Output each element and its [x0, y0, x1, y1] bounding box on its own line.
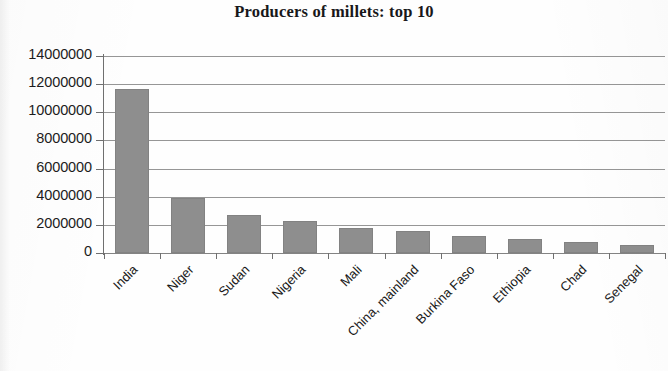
y-axis-tick-label: 8000000 [0, 130, 92, 146]
y-axis-tick-label: 4000000 [0, 187, 92, 203]
plot-area [104, 56, 665, 253]
x-axis-tick-mark [665, 253, 666, 259]
bar [227, 215, 261, 253]
x-axis-tick-mark [216, 253, 217, 259]
bar [171, 198, 205, 253]
bar [396, 231, 430, 254]
x-axis-tick-mark [385, 253, 386, 259]
gridline [104, 169, 665, 170]
y-axis-tick-label: 0 [0, 243, 92, 259]
bar [508, 239, 542, 253]
x-axis-tick-mark [497, 253, 498, 259]
x-axis-tick-mark [104, 253, 105, 259]
bar [564, 242, 598, 253]
bar [620, 245, 654, 253]
y-axis-tick-label: 10000000 [0, 102, 92, 118]
gridline [104, 56, 665, 57]
x-axis-tick-mark [160, 253, 161, 259]
gridline [104, 112, 665, 113]
y-axis-tick-label: 12000000 [0, 74, 92, 90]
y-axis-tick-label: 2000000 [0, 215, 92, 231]
bar [283, 221, 317, 253]
x-axis-tick-mark [553, 253, 554, 259]
x-axis-tick-mark [441, 253, 442, 259]
bar [339, 228, 373, 253]
x-axis-tick-mark [272, 253, 273, 259]
bar [115, 89, 149, 253]
x-axis-tick-mark [609, 253, 610, 259]
chart-figure: Producers of millets: top 10 14000000120… [0, 0, 668, 371]
y-axis-tick-label: 14000000 [0, 46, 92, 62]
gridline [104, 84, 665, 85]
gridline [104, 140, 665, 141]
bar [452, 236, 486, 253]
y-axis-tick-label: 6000000 [0, 159, 92, 175]
x-axis-tick-mark [328, 253, 329, 259]
